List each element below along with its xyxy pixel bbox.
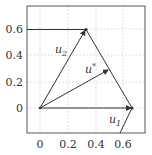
edge-u1-down	[120, 108, 132, 133]
svg-text:0.4: 0.4	[6, 49, 24, 62]
svg-text:0: 0	[16, 102, 23, 115]
u2-point	[84, 28, 87, 31]
svg-text:0.6: 0.6	[6, 23, 24, 36]
origin-point	[39, 107, 42, 110]
svg-text:0: 0	[37, 138, 44, 151]
label-u2: u2	[55, 43, 67, 58]
label-ustar: u*	[85, 62, 96, 76]
svg-text:0.4: 0.4	[87, 138, 105, 151]
vector-diagram: u2 u* u1 0 0.2 0.4 0.6 0 0.2 0.4 0.6	[0, 0, 152, 155]
svg-text:0.6: 0.6	[114, 138, 132, 151]
svg-text:0.2: 0.2	[59, 138, 77, 151]
u1-point	[130, 106, 133, 109]
edges	[27, 30, 132, 134]
svg-text:0.2: 0.2	[6, 76, 24, 89]
vector-ustar	[40, 70, 108, 108]
vector-u2	[40, 31, 85, 109]
y-tick-labels: 0 0.2 0.4 0.6	[6, 23, 24, 115]
x-tick-labels: 0 0.2 0.4 0.6	[37, 138, 132, 151]
label-u1: u1	[109, 113, 121, 128]
